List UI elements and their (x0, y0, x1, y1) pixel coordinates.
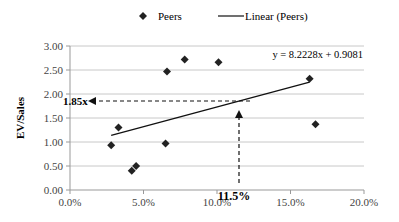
peer-point (115, 124, 123, 132)
legend-linear-label: Linear (Peers) (245, 10, 308, 23)
y-tick-label: 1.00 (44, 136, 64, 148)
x-tick-label: 5.0% (132, 196, 155, 208)
x-tick-label: 15.0% (276, 196, 304, 208)
x-tick-label: 0.0% (59, 196, 82, 208)
implied-multiple-label: 1.85x (63, 95, 88, 107)
trendline (111, 82, 309, 135)
y-tick-label: 3.00 (44, 40, 64, 52)
peer-point (306, 75, 314, 83)
legend: Peers Linear (Peers) (139, 10, 308, 23)
peer-point (311, 120, 319, 128)
x-tick-label: 20.0% (350, 196, 378, 208)
arrow-left-icon (88, 97, 96, 105)
trendline-equation: y = 8.2228x + 0.9081 (272, 49, 363, 60)
y-tick-label: 1.50 (44, 112, 64, 124)
legend-peers-label: Peers (158, 10, 182, 22)
legend-diamond-icon (139, 12, 147, 20)
data-points (107, 55, 319, 174)
y-tick-label: 2.00 (44, 88, 64, 100)
scatter-chart: Peers Linear (Peers) 0.000.501.001.502.0… (0, 0, 399, 222)
y-tick-label: 2.50 (44, 64, 64, 76)
peer-point (214, 58, 222, 66)
peer-point (107, 141, 115, 149)
peer-point (181, 55, 189, 63)
peer-point (162, 139, 170, 147)
arrow-up-icon (235, 110, 243, 118)
y-tick-label: 0.00 (44, 184, 64, 196)
y-tick-label: 0.50 (44, 160, 64, 172)
implied-margin-label: 11.5% (218, 189, 250, 203)
y-tick-labels: 0.000.501.001.502.002.503.00 (44, 40, 70, 196)
chart-svg: Peers Linear (Peers) 0.000.501.001.502.0… (0, 0, 399, 222)
peer-point (163, 67, 171, 75)
y-axis-label: EV/Sales (14, 96, 26, 139)
